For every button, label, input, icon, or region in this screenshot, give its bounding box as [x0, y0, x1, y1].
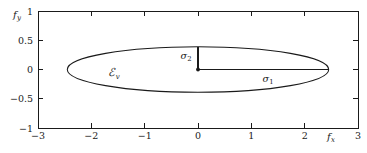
- x-tick-label: −2: [84, 130, 98, 141]
- y-tick-label: −1: [19, 123, 33, 134]
- y-tick-label: −0.5: [10, 93, 33, 104]
- x-axis-title-subscript: x: [331, 136, 335, 144]
- x-tick-label: −1: [138, 130, 152, 141]
- svg-text:fy: fy: [12, 9, 22, 22]
- x-tick-label: 3: [355, 130, 361, 141]
- svg-text:fx: fx: [326, 131, 335, 144]
- y-axis-title: fy: [12, 9, 22, 22]
- figure-container: −3 −2 −1 0 1 2 3 1 0.5 0 −0.5 −1 fy fx: [0, 0, 367, 153]
- x-tick-label: −3: [31, 130, 45, 141]
- y-axis-title-subscript: y: [16, 14, 22, 22]
- x-tick-label: 2: [302, 130, 308, 141]
- x-axis-tick-labels: −3 −2 −1 0 1 2 3: [31, 130, 361, 141]
- y-tick-label: 0.5: [18, 35, 33, 46]
- y-tick-label: 1: [27, 6, 33, 17]
- x-tick-label: 0: [195, 130, 201, 141]
- y-axis-tick-labels: 1 0.5 0 −0.5 −1: [10, 6, 33, 134]
- y-tick-label: 0: [27, 64, 33, 75]
- x-tick-label: 1: [248, 130, 254, 141]
- ellipse-plot: −3 −2 −1 0 1 2 3 1 0.5 0 −0.5 −1 fy fx: [0, 0, 367, 153]
- center-point-marker: [196, 68, 200, 72]
- x-axis-title: fx: [326, 131, 335, 144]
